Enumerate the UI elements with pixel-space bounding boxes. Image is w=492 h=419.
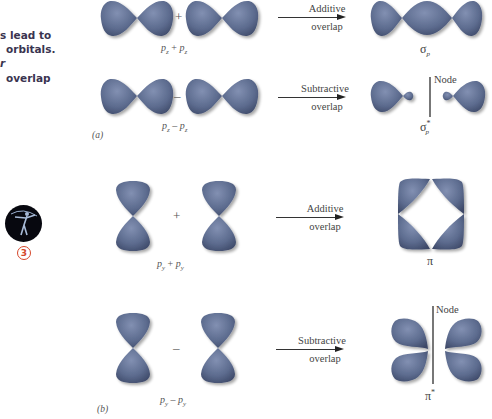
py-orbital-right [201, 180, 237, 256]
equation-py-plus-py: py + py [157, 258, 184, 272]
step-number-badge: 3 [17, 246, 31, 260]
minus-operator-b: – [173, 340, 180, 356]
label-pi: π [427, 254, 433, 269]
arrow-label-overlap-4: overlap [285, 353, 365, 365]
arrow-label-overlap: overlap [287, 21, 367, 33]
arrow-label-overlap-2: overlap [287, 101, 367, 113]
pi-antibonding-right-lobes [443, 318, 483, 386]
plus-operator: + [175, 9, 182, 25]
node-label-b: Node [436, 304, 459, 315]
sigma-antibonding-left-lobe [370, 80, 420, 118]
equation-pz-minus-pz: pz – pz [162, 120, 187, 134]
sidebar-text-line-2: orbitals. [6, 42, 55, 56]
reaction-arrow-line-4 [276, 349, 336, 350]
arrow-head-icon [335, 346, 344, 352]
sigma-antibonding-right-lobe [443, 80, 492, 118]
arrow-label-subtractive: Subtractive [285, 83, 365, 95]
pi-antibonding-left-lobes [390, 318, 430, 386]
arrow-label-additive: Additive [287, 3, 367, 15]
py-orbital-left [115, 180, 151, 256]
pi-bonding-orbital [398, 178, 464, 254]
arrow-label-additive-b: Additive [285, 203, 365, 215]
label-sigma-p-star: σ*p [420, 119, 429, 136]
label-pi-star: π* [425, 388, 435, 404]
reaction-arrow-line-3 [276, 217, 336, 218]
arrow-head-icon [335, 214, 344, 220]
node-plane-line [429, 77, 431, 117]
pz-orbital-right [185, 0, 260, 42]
arrow-label-overlap-3: overlap [285, 221, 365, 233]
sidebar-text-line-4: overlap [6, 71, 51, 85]
node-plane-line-b [432, 306, 434, 384]
reaction-arrow-line-2 [278, 97, 338, 98]
equation-py-minus-py: py – py [160, 394, 186, 408]
plus-operator-b: + [173, 208, 180, 224]
sigma-bonding-orbital [370, 0, 485, 42]
reaction-arrow-line [278, 17, 338, 18]
arrow-head-icon [337, 14, 346, 20]
equation-pz-plus-pz: pz + pz [161, 42, 187, 56]
sidebar-text-line-3: r [0, 56, 5, 70]
pz-orbital-right-2 [185, 78, 260, 120]
pz-orbital-left [100, 0, 175, 42]
panel-label-b: (b) [97, 404, 108, 414]
sidebar-text-line-1: s lead to [0, 28, 51, 42]
py-orbital-left-2 [115, 312, 151, 388]
minus-operator: – [174, 88, 181, 104]
py-orbital-right-2 [200, 312, 236, 388]
pz-orbital-left-2 [100, 78, 175, 120]
arrow-label-subtractive-b: Subtractive [282, 335, 362, 347]
panel-label-a: (a) [92, 130, 103, 140]
label-sigma-p: σp [420, 42, 430, 58]
dancer-logo-icon [5, 205, 42, 242]
arrow-head-icon [337, 94, 346, 100]
